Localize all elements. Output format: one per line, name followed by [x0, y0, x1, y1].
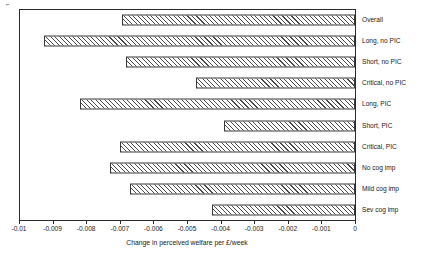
x-tick: [355, 221, 356, 224]
x-tick: [321, 221, 322, 224]
x-tick: [288, 221, 289, 224]
x-tick-label: 0: [353, 225, 357, 233]
x-tick-label: -0.01: [11, 225, 26, 233]
category-label: Mild cog imp: [362, 179, 421, 200]
x-tick: [19, 221, 20, 224]
x-tick-label: -0.004: [211, 225, 230, 233]
zero-axis-line: [355, 9, 356, 221]
bar: [44, 35, 355, 46]
chart-figure: ⌐ OverallLong, no PICShort, no PICCritic…: [0, 0, 421, 255]
x-tick: [120, 221, 121, 224]
x-tick-label: -0.007: [110, 225, 129, 233]
bar: [130, 184, 355, 195]
bar: [196, 78, 355, 89]
bar: [126, 56, 355, 67]
bar-row: [19, 73, 355, 94]
bar: [212, 205, 355, 216]
bar: [110, 162, 355, 173]
x-tick: [221, 221, 222, 224]
bar-row: [19, 157, 355, 178]
corner-mark: ⌐: [6, 1, 10, 7]
category-label: Long, PIC: [362, 94, 421, 115]
bar-series: [19, 9, 355, 221]
category-label: Sev cog imp: [362, 200, 421, 221]
bar: [120, 141, 355, 152]
x-tick-label: -0.009: [43, 225, 62, 233]
bar-row: [19, 94, 355, 115]
bar: [80, 99, 355, 110]
category-label: No cog imp: [362, 157, 421, 178]
category-label: Short, no PIC: [362, 51, 421, 72]
category-axis-labels: OverallLong, no PICShort, no PICCritical…: [362, 9, 421, 221]
category-label: Critical, no PIC: [362, 73, 421, 94]
x-tick-label: -0.005: [178, 225, 197, 233]
category-label: Long, no PIC: [362, 30, 421, 51]
category-label: Short, PIC: [362, 115, 421, 136]
bar: [224, 120, 355, 131]
bar-row: [19, 200, 355, 221]
x-tick-label: -0.002: [278, 225, 297, 233]
bar-row: [19, 136, 355, 157]
x-axis-title: Change in perceived welfare per £/week: [19, 238, 355, 247]
x-tick: [53, 221, 54, 224]
bar: [122, 14, 355, 25]
x-tick: [86, 221, 87, 224]
x-tick-label: -0.003: [245, 225, 264, 233]
x-tick-label: -0.008: [77, 225, 96, 233]
category-label: Overall: [362, 9, 421, 30]
x-tick: [153, 221, 154, 224]
x-tick-label: -0.001: [312, 225, 331, 233]
category-label: Critical, PIC: [362, 136, 421, 157]
bar-row: [19, 51, 355, 72]
bar-row: [19, 30, 355, 51]
x-axis: -0.01-0.009-0.008-0.007-0.006-0.005-0.00…: [19, 221, 355, 237]
x-tick: [254, 221, 255, 224]
bar-row: [19, 179, 355, 200]
bar-row: [19, 9, 355, 30]
x-tick: [187, 221, 188, 224]
x-tick-label: -0.006: [144, 225, 163, 233]
bar-row: [19, 115, 355, 136]
